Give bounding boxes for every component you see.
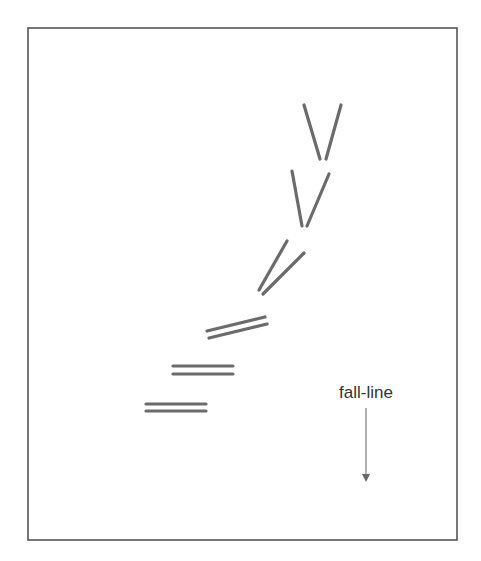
ski-turn-diagram: fall-line — [0, 0, 481, 561]
diagram-frame — [28, 28, 457, 540]
fall-line-label: fall-line — [339, 383, 393, 402]
